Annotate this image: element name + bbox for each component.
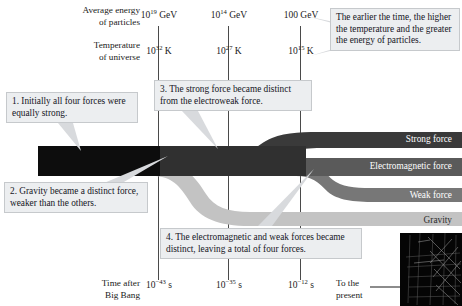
- callout-1-leader: [55, 122, 101, 152]
- label-electromagnetic-force-text: Electromagnetic force: [370, 161, 452, 171]
- callout-note-top-right: The earlier the time, the higher the tem…: [330, 8, 460, 51]
- callout-3-leader: [178, 110, 228, 150]
- energy-value-2-base: 10: [211, 10, 221, 20]
- callout-step-4-text: 4. The electromagnetic and weak forces b…: [166, 232, 345, 254]
- energy-value-2-unit: GeV: [227, 10, 247, 20]
- callout-step-1: 1. Initially all four forces were equall…: [6, 92, 138, 123]
- callout-step-2-text: 2. Gravity became a distinct force, weak…: [10, 186, 138, 208]
- callout-note-text: The earlier the time, the higher the tem…: [336, 12, 452, 45]
- time-value-2-unit: s: [236, 280, 242, 290]
- time-axis-label-line1: Time after: [36, 278, 140, 290]
- energy-value-1-exp: 19: [150, 8, 157, 15]
- temperature-value-2: 1027 K: [198, 46, 260, 56]
- callout-step-3: 3. The strong force became distinct from…: [154, 80, 312, 111]
- temperature-value-2-unit: K: [232, 46, 241, 56]
- inset-photo: [400, 233, 462, 306]
- force-unification-diagram: Average energy of particles 1019 GeV 101…: [0, 0, 462, 306]
- time-value-3-unit: s: [308, 280, 314, 290]
- temperature-value-1-unit: K: [162, 46, 171, 56]
- time-value-2-base: 10: [216, 280, 226, 290]
- time-value-3: 10−12 s: [270, 280, 332, 290]
- temperature-value-2-base: 10: [216, 46, 226, 56]
- time-value-1-exp: −43: [156, 278, 166, 285]
- average-energy-label: Average energy of particles: [30, 5, 140, 28]
- temperature-value-1-base: 10: [146, 46, 156, 56]
- label-gravity: Gravity: [300, 214, 452, 226]
- temperature-label-line2: of universe: [30, 52, 140, 64]
- temperature-value-3-base: 10: [288, 46, 298, 56]
- callout-step-2: 2. Gravity became a distinct force, weak…: [4, 182, 148, 213]
- label-gravity-text: Gravity: [424, 215, 452, 225]
- average-energy-label-line1: Average energy: [30, 5, 140, 17]
- temperature-value-1: 1032 K: [128, 46, 190, 56]
- label-weak-force-text: Weak force: [410, 190, 452, 200]
- label-strong-force-text: Strong force: [406, 134, 452, 144]
- time-axis-label-line2: Big Bang: [36, 290, 140, 302]
- energy-value-2: 1014 GeV: [198, 10, 260, 20]
- time-value-2: 10−35 s: [198, 280, 260, 290]
- time-value-2-exp: −35: [226, 278, 236, 285]
- callout-step-1-text: 1. Initially all four forces were equall…: [12, 96, 126, 118]
- energy-value-1-base: 10: [141, 10, 151, 20]
- energy-value-2-exp: 14: [220, 8, 227, 15]
- time-value-1-base: 10: [146, 280, 156, 290]
- callout-step-4: 4. The electromagnetic and weak forces b…: [160, 228, 362, 259]
- temperature-label: Temperature of universe: [30, 40, 140, 63]
- label-electromagnetic-force: Electromagnetic force: [300, 160, 452, 172]
- time-value-1: 10−43 s: [128, 280, 190, 290]
- energy-value-1-unit: GeV: [157, 10, 177, 20]
- time-value-3-exp: −12: [298, 278, 308, 285]
- inset-wireframe: [400, 233, 462, 306]
- time-axis-label: Time after Big Bang: [36, 278, 140, 301]
- energy-value-3-base: 100: [284, 10, 298, 20]
- time-value-3-base: 10: [288, 280, 298, 290]
- callout-step-3-text: 3. The strong force became distinct from…: [160, 84, 291, 106]
- temperature-label-line1: Temperature: [30, 40, 140, 52]
- label-strong-force: Strong force: [300, 133, 452, 145]
- time-value-1-unit: s: [166, 280, 172, 290]
- average-energy-label-line2: of particles: [30, 17, 140, 29]
- label-weak-force: Weak force: [300, 189, 452, 201]
- callout-4-leader: [250, 168, 318, 228]
- energy-value-1: 1019 GeV: [128, 10, 190, 20]
